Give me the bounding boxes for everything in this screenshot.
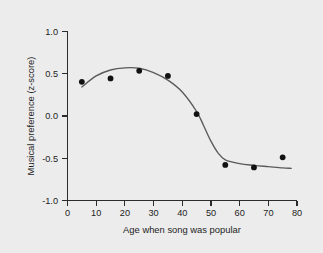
x-tick-label: 10 [91,208,101,218]
y-axis-ticks [62,32,68,201]
data-point [251,165,257,171]
x-axis-ticks [68,201,298,207]
x-tick-label: 40 [177,208,187,218]
data-point [194,111,200,117]
figure-container: 1.0 0.5 0.0 -0.5 -1.0 0 10 20 30 40 50 [0,0,323,253]
data-point [165,73,171,79]
x-tick-label: 70 [263,208,273,218]
x-tick-label: 50 [206,208,216,218]
x-axis-title: Age when song was popular [123,224,241,235]
y-tick-label: 1.0 [45,27,58,37]
data-point [280,154,286,160]
x-tick-label: 20 [120,208,130,218]
data-point [136,68,142,74]
x-tick-label: 60 [235,208,245,218]
x-tick-label: 30 [148,208,158,218]
data-point [108,76,114,82]
scatter-plot: 1.0 0.5 0.0 -0.5 -1.0 0 10 20 30 40 50 [0,0,323,253]
data-point [222,162,228,168]
y-tick-label: 0.0 [45,111,58,121]
y-axis-title: Musical preference (z-score) [25,57,36,176]
y-tick-label: 0.5 [45,69,58,79]
y-tick-label: -0.5 [42,154,58,164]
y-tick-label: -1.0 [42,196,58,206]
x-axis-tick-labels: 0 10 20 30 40 50 60 70 80 [65,208,302,218]
x-tick-label: 80 [292,208,302,218]
x-tick-label: 0 [65,208,70,218]
data-point [79,79,85,85]
y-axis-tick-labels: 1.0 0.5 0.0 -0.5 -1.0 [42,27,58,206]
plot-panel-background [67,31,297,200]
